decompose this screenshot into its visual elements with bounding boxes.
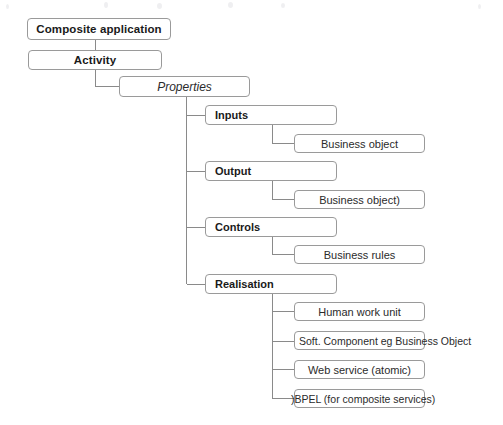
scan-speckle xyxy=(6,4,9,9)
node-output-label: Output xyxy=(206,165,336,177)
node-realisation-label: Realisation xyxy=(206,278,336,290)
node-realisation-human-work-unit[interactable]: Human work unit xyxy=(294,302,425,321)
node-realisation-bpel-label: )BPEL (for composite services) xyxy=(291,393,435,405)
node-properties[interactable]: Properties xyxy=(119,76,250,97)
node-inputs-business-object-label: Business object xyxy=(295,138,424,150)
scan-speckle xyxy=(157,3,162,9)
scan-speckle xyxy=(281,3,285,8)
node-realisation-human-work-unit-label: Human work unit xyxy=(295,306,424,318)
node-realisation-bpel[interactable]: )BPEL (for composite services) xyxy=(294,389,425,408)
tree-diagram-canvas: Composite application Activity Propertie… xyxy=(0,0,503,425)
node-inputs[interactable]: Inputs xyxy=(205,105,337,125)
scan-speckle xyxy=(104,2,108,8)
node-output-business-object-label: Business object) xyxy=(295,194,424,206)
node-activity[interactable]: Activity xyxy=(28,50,162,70)
node-realisation-soft-component[interactable]: Soft. Component eg Business Object xyxy=(294,331,425,350)
node-composite-application-label: Composite application xyxy=(28,23,170,35)
node-inputs-label: Inputs xyxy=(206,109,336,121)
node-realisation-web-service-label: Web service (atomic) xyxy=(295,364,424,376)
node-controls-label: Controls xyxy=(206,221,336,233)
node-realisation-soft-component-label: Soft. Component eg Business Object xyxy=(295,335,471,347)
node-realisation[interactable]: Realisation xyxy=(205,274,337,294)
scan-speckle xyxy=(478,4,481,9)
node-inputs-business-object[interactable]: Business object xyxy=(294,134,425,153)
node-output[interactable]: Output xyxy=(205,161,337,181)
node-controls[interactable]: Controls xyxy=(205,217,337,237)
scan-speckle xyxy=(228,2,233,8)
node-composite-application[interactable]: Composite application xyxy=(27,18,171,40)
node-controls-business-rules[interactable]: Business rules xyxy=(294,245,425,264)
node-realisation-web-service[interactable]: Web service (atomic) xyxy=(294,360,425,379)
node-output-business-object[interactable]: Business object) xyxy=(294,190,425,209)
node-controls-business-rules-label: Business rules xyxy=(295,249,424,261)
node-properties-label: Properties xyxy=(120,80,249,94)
node-activity-label: Activity xyxy=(29,54,161,66)
